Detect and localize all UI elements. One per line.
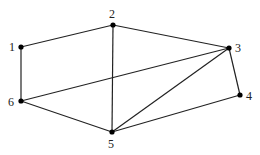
node-label-6: 6 xyxy=(8,95,14,109)
edge-2-5 xyxy=(112,25,113,132)
edge-1-2 xyxy=(21,25,113,47)
node-1 xyxy=(18,44,23,49)
node-4 xyxy=(237,92,242,97)
edge-5-6 xyxy=(21,101,112,132)
node-label-2: 2 xyxy=(109,7,115,21)
node-5 xyxy=(109,129,114,134)
node-label-3: 3 xyxy=(235,41,241,55)
edge-4-5 xyxy=(112,95,240,132)
edge-3-4 xyxy=(229,48,240,95)
node-label-5: 5 xyxy=(108,137,114,151)
node-2 xyxy=(110,22,115,27)
edge-3-6 xyxy=(21,48,229,101)
node-label-4: 4 xyxy=(246,89,252,103)
node-3 xyxy=(226,45,231,50)
edges-group xyxy=(21,25,240,132)
graph-diagram: 123456 xyxy=(0,0,260,155)
edge-2-3 xyxy=(113,25,229,48)
node-6 xyxy=(18,98,23,103)
edge-3-5 xyxy=(112,48,229,132)
node-label-1: 1 xyxy=(9,40,15,54)
